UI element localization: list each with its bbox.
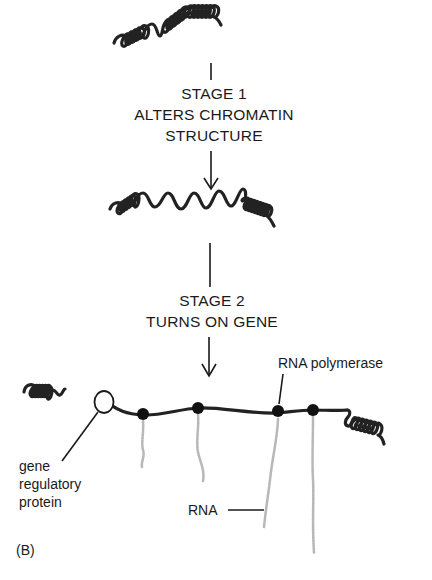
rna-polymerase-label: RNA polymerase xyxy=(278,355,383,371)
decondensed-chromatin xyxy=(110,189,274,226)
stage1-title: STAGE 1 xyxy=(181,85,247,102)
left-chromatin-coil xyxy=(24,385,65,399)
gene-regulatory-pointer xyxy=(62,412,98,461)
rna-transcript-4 xyxy=(313,416,314,553)
gene-regulatory-label-line3: protein xyxy=(19,494,62,510)
rna-polymerase-2 xyxy=(192,402,204,414)
condensed-chromatin xyxy=(114,6,221,47)
rna-polymerase-4 xyxy=(307,404,319,416)
stage2-arrow-icon xyxy=(202,337,216,376)
stage2-title: STAGE 2 xyxy=(179,292,245,309)
gene-regulatory-label-line1: gene xyxy=(19,458,50,474)
active-gene xyxy=(24,385,384,553)
rna-polymerase-3 xyxy=(272,405,284,417)
panel-label: (B) xyxy=(16,542,35,558)
right-chromatin-coil xyxy=(345,410,384,444)
rna-polymerase-1 xyxy=(137,408,149,420)
rna-transcript-1 xyxy=(142,421,144,467)
gene-regulatory-label-line2: regulatory xyxy=(19,476,81,492)
rna-transcript-2 xyxy=(197,414,203,481)
stage1-arrow-icon xyxy=(204,151,218,189)
rna-transcript-3 xyxy=(264,419,278,527)
stage1-description-line1: ALTERS CHROMATIN xyxy=(134,106,293,123)
gene-regulatory-protein xyxy=(95,391,114,413)
rna-polymerase-pointer xyxy=(279,374,283,404)
gene-activation-diagram: STAGE 1 ALTERS CHROMATIN STRUCTURE STAGE… xyxy=(0,0,432,580)
rna-label: RNA xyxy=(188,502,218,518)
stage1-description-line2: STRUCTURE xyxy=(165,127,262,144)
stage2-description: TURNS ON GENE xyxy=(146,313,278,330)
